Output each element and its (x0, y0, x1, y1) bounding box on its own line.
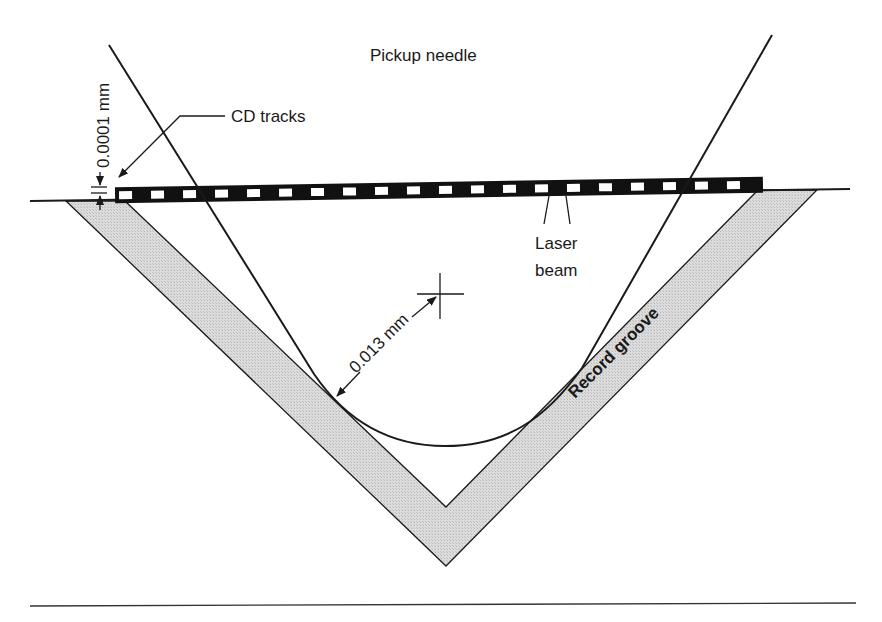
cd-pit (599, 183, 612, 191)
cd-pit (215, 189, 228, 197)
cd-pit (279, 188, 292, 196)
cd-pit (247, 189, 260, 197)
cd-pit (311, 188, 324, 196)
cd-pit (567, 184, 580, 192)
cd-pit (727, 181, 740, 189)
cd-pit (343, 187, 356, 195)
cd-pit (535, 184, 548, 192)
pickup-needle-title: Pickup needle (370, 46, 477, 65)
cd-pit (663, 182, 676, 190)
cd-pit (439, 186, 452, 194)
cd-tracks-label: CD tracks (231, 107, 306, 126)
laser-label-line2: beam (535, 261, 578, 280)
pickup-needle-outline (109, 35, 772, 446)
cd-pit (183, 190, 196, 198)
laser-beam (544, 196, 570, 224)
cd-pit (407, 186, 420, 194)
record-groove (66, 190, 817, 566)
cd-track-strip (115, 177, 763, 204)
radius-dimension: 0.013 mm (337, 297, 436, 396)
radius-label: 0.013 mm (345, 310, 412, 377)
bottom-rule (30, 603, 856, 606)
track-thickness-label: 0.0001 mm (94, 83, 113, 168)
cd-pit (503, 185, 516, 193)
cd-pit (631, 183, 644, 191)
laser-label-line1: Laser (535, 234, 578, 253)
cd-pit (151, 191, 164, 199)
cd-pit (471, 185, 484, 193)
cd-pit (119, 191, 132, 199)
needle-center-crosshair (417, 273, 464, 319)
cd-vs-record-diagram: 0.013 mm CD tracks 0.0001 mm Laser beam … (0, 0, 882, 622)
cd-pit (375, 187, 388, 195)
cd-pit (695, 182, 708, 190)
